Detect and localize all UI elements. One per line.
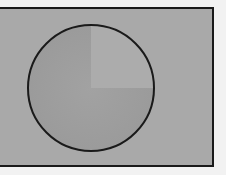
pie-chart (0, 0, 226, 175)
